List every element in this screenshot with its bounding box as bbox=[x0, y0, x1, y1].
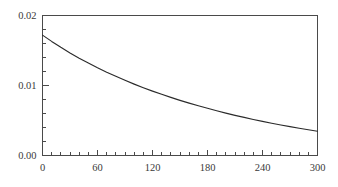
x-axis-tick-label: 0 bbox=[40, 162, 45, 173]
data-series-group bbox=[43, 35, 318, 131]
axis-tick-labels: 0601201802403000.000.010.02 bbox=[18, 10, 325, 172]
x-axis-tick-label: 180 bbox=[200, 162, 216, 173]
plot-frame bbox=[43, 16, 318, 156]
x-axis-tick-label: 240 bbox=[255, 162, 271, 173]
axis-ticks bbox=[43, 16, 318, 156]
plot-border bbox=[43, 16, 318, 156]
y-axis-tick-label: 0.02 bbox=[18, 10, 36, 21]
y-axis-tick-label: 0.00 bbox=[18, 150, 36, 161]
chart-page: 0601201802403000.000.010.02 bbox=[0, 0, 338, 187]
x-axis-tick-label: 60 bbox=[92, 162, 103, 173]
x-axis-tick-label: 300 bbox=[310, 162, 326, 173]
data-curve-decay bbox=[43, 35, 318, 131]
x-axis-tick-label: 120 bbox=[145, 162, 161, 173]
decay-line-chart: 0601201802403000.000.010.02 bbox=[0, 0, 338, 187]
y-axis-tick-label: 0.01 bbox=[18, 80, 36, 91]
